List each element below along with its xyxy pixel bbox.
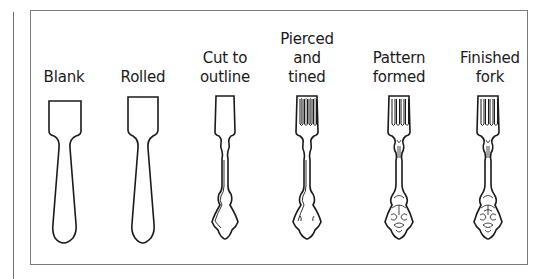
finished-fork-icon (445, 0, 535, 279)
tined-fork-icon (262, 0, 352, 279)
margin-rule (13, 12, 14, 279)
outline-cut-icon (180, 0, 270, 279)
patterned-fork-icon (354, 0, 444, 279)
blank-icon (19, 0, 109, 279)
rolled-blank-icon (98, 0, 188, 279)
